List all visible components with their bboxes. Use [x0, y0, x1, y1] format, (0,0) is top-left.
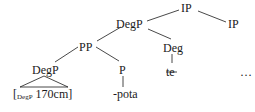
ellipsis: … — [240, 65, 252, 79]
triangle-degp — [20, 76, 68, 87]
edge-ip-ip — [198, 11, 226, 22]
syntax-tree: IP IP DegP PP Deg DegP P te [DegP 170cm]… — [0, 0, 255, 112]
bracket-value: 170cm] — [33, 87, 73, 101]
bracket-subscript: DegP — [17, 93, 33, 101]
leaf-degp-170cm: [DegP 170cm] — [13, 87, 72, 101]
node-ip-right: IP — [228, 17, 239, 31]
node-pp: PP — [79, 40, 93, 54]
node-degp-low: DegP — [32, 63, 59, 77]
edge-ip-degp — [147, 10, 179, 21]
edge-pp-degp — [55, 47, 78, 62]
edge-degp-deg — [148, 29, 171, 39]
leaf-pota: -pota — [113, 87, 138, 101]
node-p: P — [119, 63, 126, 77]
node-ip-top: IP — [181, 1, 192, 15]
edge-pp-p — [96, 47, 119, 61]
node-degp-mid: DegP — [116, 17, 143, 31]
node-deg: Deg — [163, 41, 183, 55]
